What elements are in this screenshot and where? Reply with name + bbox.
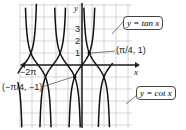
- y-tick-1: 1: [75, 48, 80, 58]
- y-tick-2: 2: [75, 36, 80, 46]
- point-label-pos: (π/4, 1): [116, 45, 146, 55]
- cot-callout: y = cot x: [136, 86, 176, 100]
- tan-callout: y = tan x: [123, 16, 163, 30]
- x-axis-label: x: [134, 67, 138, 77]
- y-tick-3: 3: [75, 24, 80, 34]
- point-label-neg: (−π/4, −1): [2, 82, 42, 92]
- y-axis-label: y: [74, 3, 78, 13]
- x-tick-neg-two-pi: −2π: [20, 67, 36, 77]
